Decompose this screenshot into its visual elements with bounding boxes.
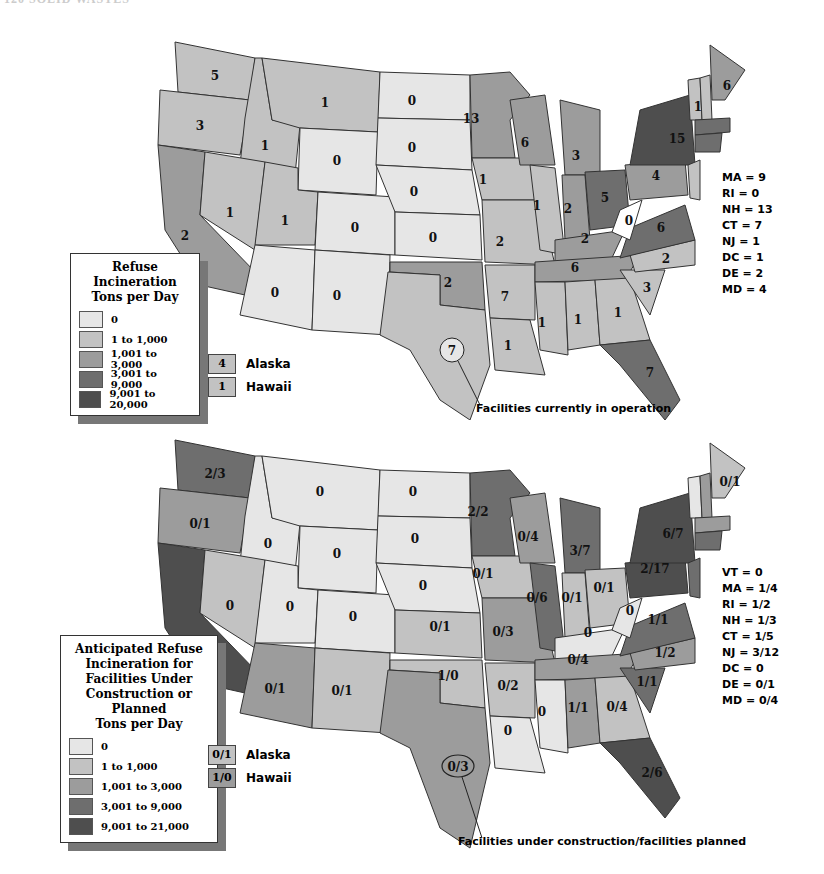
- legend-label: 1,001 to 3,000: [111, 348, 191, 370]
- label-wy: 0: [333, 154, 341, 168]
- label-nm: 0/1: [331, 684, 352, 698]
- legend-title-line: Facilities Under: [69, 672, 209, 687]
- hawaii-value: 1: [208, 377, 236, 397]
- inset-alaska: 4 Alaska: [208, 354, 291, 374]
- label-mo: 0/3: [492, 625, 513, 639]
- label-nd: 0: [408, 94, 416, 108]
- legend-label: 0: [111, 314, 118, 325]
- label-ms: 0: [538, 705, 546, 719]
- label-mi: 3: [572, 149, 580, 163]
- label-il: 1: [533, 199, 541, 213]
- legend-label: 0: [101, 741, 108, 752]
- state-nm: [312, 250, 390, 335]
- label-fl: 2/6: [641, 766, 662, 780]
- label-ga: 0/4: [606, 700, 627, 714]
- label-sd: 0: [411, 532, 419, 546]
- annotation-planned: Facilities under construction/facilities…: [458, 835, 746, 848]
- label-ia: 0/1: [472, 567, 493, 581]
- side-item: DC = 1: [722, 250, 773, 266]
- label-nd: 0: [409, 485, 417, 499]
- side-item: CT = 7: [722, 218, 773, 234]
- state-mt: [262, 58, 380, 132]
- swatch: [69, 778, 93, 795]
- label-tn: 6: [571, 261, 579, 275]
- legend-title-line: Anticipated Refuse: [69, 642, 209, 657]
- legend-title-line: Tons per Day: [79, 290, 191, 305]
- label-mi: 3/7: [569, 544, 590, 558]
- label-ny: 6/7: [662, 527, 683, 541]
- label-ar: 0/2: [497, 679, 518, 693]
- state-ny: [630, 95, 695, 165]
- label-sc: 3: [643, 281, 651, 295]
- label-ca: 2: [181, 229, 189, 243]
- legend-row: 1 to 1,000: [69, 756, 209, 776]
- side-item: NH = 13: [722, 202, 773, 218]
- state-wi: [510, 95, 555, 165]
- legend-row: 9,001 to 20,000: [79, 389, 191, 409]
- label-mt: 1: [321, 96, 329, 110]
- label-sc: 1/1: [636, 675, 657, 689]
- side-item: NJ = 1: [722, 234, 773, 250]
- swatch: [69, 758, 93, 775]
- legend-title: Refuse Incineration Tons per Day: [79, 260, 191, 305]
- state-ks: [395, 212, 482, 260]
- side-item: DE = 0/1: [722, 677, 779, 693]
- label-in: 2: [564, 202, 572, 216]
- label-ar: 7: [501, 290, 509, 304]
- alaska-label: Alaska: [246, 748, 291, 762]
- side-list-planned: VT = 0 MA = 1/4 RI = 1/2 NH = 1/3 CT = 1…: [722, 565, 779, 709]
- side-item: VT = 0: [722, 565, 779, 581]
- label-me: 0/1: [719, 475, 740, 489]
- label-mo: 2: [496, 235, 504, 249]
- label-wa: 2/3: [204, 467, 225, 481]
- label-id: 1: [261, 139, 269, 153]
- state-al: [565, 280, 600, 350]
- label-co: 0: [351, 221, 359, 235]
- label-nv: 0: [226, 599, 234, 613]
- label-me: 6: [723, 79, 731, 93]
- legend-row: 3,001 to 9,000: [79, 369, 191, 389]
- label-nm: 0: [333, 289, 341, 303]
- state-ma: [695, 118, 730, 135]
- label-or: 3: [196, 119, 204, 133]
- label-co: 0: [349, 610, 357, 624]
- legend-label: 1,001 to 3,000: [101, 781, 182, 792]
- label-nc: 1/2: [654, 646, 675, 660]
- alaska-value: 4: [208, 354, 236, 374]
- label-tn: 0/4: [567, 653, 588, 667]
- label-oh: 0/1: [593, 581, 614, 595]
- legend-label: 1 to 1,000: [101, 761, 158, 772]
- label-nc: 2: [662, 252, 670, 266]
- label-wv: 0: [626, 604, 634, 618]
- side-item: CT = 1/5: [722, 629, 779, 645]
- label-or: 0/1: [189, 517, 210, 531]
- label-mn: 13: [463, 112, 480, 126]
- label-ia: 1: [479, 173, 487, 187]
- label-wi: 6: [521, 136, 529, 150]
- label-wv: 0: [625, 214, 633, 228]
- label-pa: 4: [652, 169, 660, 183]
- legend-label: 9,001 to 20,000: [109, 388, 191, 410]
- hawaii-label: Hawaii: [246, 380, 292, 394]
- label-in: 0/1: [561, 591, 582, 605]
- label-wy: 0: [333, 547, 341, 561]
- legend-row: 0: [69, 736, 209, 756]
- legend-row: 1,001 to 3,000: [79, 349, 191, 369]
- label-az: 0: [271, 286, 279, 300]
- swatch: [79, 351, 103, 368]
- swatch: [69, 738, 93, 755]
- label-ne: 0: [419, 579, 427, 593]
- label-id: 0: [264, 537, 272, 551]
- label-mn: 2/2: [467, 505, 488, 519]
- label-ky: 2: [581, 232, 589, 246]
- label-az: 0/1: [264, 682, 285, 696]
- legend-row: 3,001 to 9,000: [69, 796, 209, 816]
- legend-current: Refuse Incineration Tons per Day 0 1 to …: [70, 253, 200, 416]
- side-item: RI = 1/2: [722, 597, 779, 613]
- legend-title-line: Incineration for: [69, 657, 209, 672]
- side-item: MA = 9: [722, 170, 773, 186]
- side-item: NJ = 3/12: [722, 645, 779, 661]
- label-ms: 1: [538, 316, 546, 330]
- label-la: 0: [504, 724, 512, 738]
- alaska-label: Alaska: [246, 357, 291, 371]
